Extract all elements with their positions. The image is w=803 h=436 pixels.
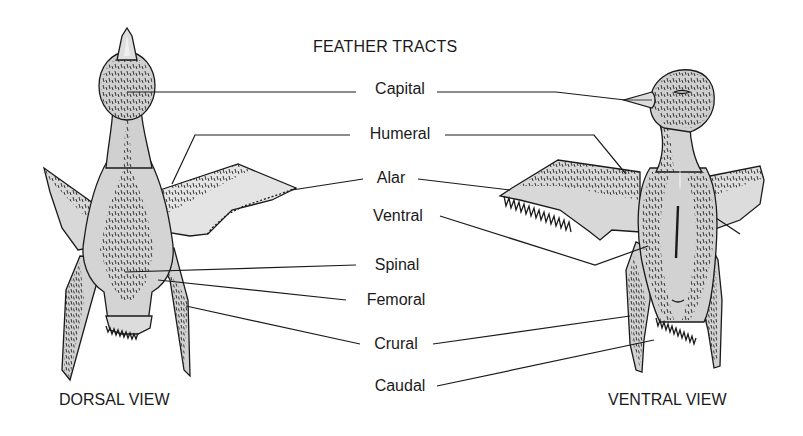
- dorsal-view-caption: DORSAL VIEW: [59, 391, 170, 409]
- leader-alar-ventral: [418, 179, 510, 190]
- label-crural: Crural: [374, 335, 418, 353]
- leader-crural-dorsal: [186, 306, 360, 344]
- feather-tracts-diagram: FEATHER TRACTS Capital Humeral Alar Vent…: [0, 0, 803, 436]
- leader-caudal: [437, 340, 654, 386]
- label-femoral: Femoral: [367, 291, 426, 309]
- leader-capital-ventral: [437, 92, 625, 100]
- leader-crural-ventral: [433, 316, 630, 344]
- diagram-title: FEATHER TRACTS: [313, 38, 457, 56]
- label-ventral: Ventral: [373, 207, 423, 225]
- label-alar: Alar: [377, 169, 405, 187]
- leader-alar-dorsal: [292, 179, 363, 190]
- ventral-bird: [500, 70, 764, 372]
- label-humeral: Humeral: [370, 125, 430, 143]
- ventral-view-caption: VENTRAL VIEW: [608, 391, 727, 409]
- label-spinal: Spinal: [375, 256, 419, 274]
- label-caudal: Caudal: [375, 377, 426, 395]
- dorsal-bird: [44, 28, 296, 380]
- label-capital: Capital: [375, 80, 425, 98]
